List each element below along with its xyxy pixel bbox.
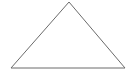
canvas-background [0, 0, 133, 78]
triangle-canvas [0, 0, 133, 78]
figure-container [0, 0, 133, 78]
